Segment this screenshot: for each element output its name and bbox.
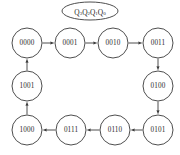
state-node-label: 0000 xyxy=(20,39,35,47)
arrowhead-icon xyxy=(43,129,47,132)
arrowhead-icon xyxy=(157,110,160,114)
state-node-1001[interactable]: 1001 xyxy=(12,71,42,101)
state-node-label: 0011 xyxy=(151,39,166,47)
state-node-0000[interactable]: 0000 xyxy=(12,28,42,58)
arrowhead-icon xyxy=(131,129,135,132)
arrowhead-icon xyxy=(138,42,142,45)
state-node-0100[interactable]: 0100 xyxy=(143,71,173,101)
edge-0000-to-0001 xyxy=(43,42,55,45)
state-node-label: 0010 xyxy=(106,39,121,47)
edge-0110-to-0111 xyxy=(87,129,100,132)
edge-0010-to-0011 xyxy=(129,42,143,45)
arrowhead-icon xyxy=(157,66,160,70)
edge-0100-to-0101 xyxy=(157,102,160,115)
edges-layer xyxy=(26,42,160,132)
nodes-layer: 0000000100100011010001010110011110001001 xyxy=(12,28,173,145)
arrowhead-icon xyxy=(93,42,97,45)
edge-1001-to-0000 xyxy=(26,59,29,71)
state-node-label: 0111 xyxy=(64,126,79,134)
edge-0111-to-1000 xyxy=(43,129,56,132)
edge-0101-to-0110 xyxy=(131,129,143,132)
state-node-label: 1000 xyxy=(20,126,35,134)
state-node-label: 0110 xyxy=(108,126,123,134)
state-node-1000[interactable]: 1000 xyxy=(12,115,42,145)
arrowhead-icon xyxy=(26,59,29,63)
state-node-label: 1001 xyxy=(20,82,35,90)
state-diagram-svg: 0000000100100011010001010110011110001001… xyxy=(0,0,180,155)
register-label-text: Q3Q2Q1Q0 xyxy=(74,7,106,16)
register-label-group: Q3Q2Q1Q0 xyxy=(62,2,118,20)
state-node-label: 0001 xyxy=(63,39,78,47)
state-node-0110[interactable]: 0110 xyxy=(100,115,130,145)
state-node-0101[interactable]: 0101 xyxy=(143,115,173,145)
arrowhead-icon xyxy=(26,102,29,106)
edge-0001-to-0010 xyxy=(86,42,98,45)
state-node-0011[interactable]: 0011 xyxy=(143,28,173,58)
state-node-label: 0100 xyxy=(151,82,166,90)
state-node-0010[interactable]: 0010 xyxy=(98,28,128,58)
state-node-label: 0101 xyxy=(151,126,166,134)
edge-0011-to-0100 xyxy=(157,59,160,71)
state-node-0111[interactable]: 0111 xyxy=(56,115,86,145)
edge-1000-to-1001 xyxy=(26,102,29,115)
arrowhead-icon xyxy=(87,129,91,132)
state-diagram-canvas: 0000000100100011010001010110011110001001… xyxy=(0,0,180,155)
arrowhead-icon xyxy=(50,42,54,45)
state-node-0001[interactable]: 0001 xyxy=(55,28,85,58)
